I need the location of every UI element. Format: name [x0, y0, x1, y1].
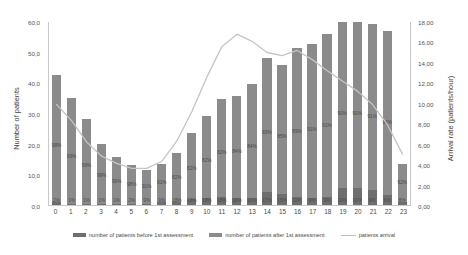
x-tick-label: 6: [139, 208, 154, 220]
legend-item-before: number of patients before 1st assessment: [73, 232, 193, 238]
y-tick-right: 12,00: [418, 80, 433, 87]
legend-label-before: number of patients before 1st assessment: [89, 232, 193, 238]
y-tick-right: 4,00: [418, 162, 430, 169]
x-tick-label: 0: [48, 208, 63, 220]
y-axis-right: 0,002,004,006,008,0010,0012,0014,0016,00…: [413, 22, 447, 206]
y-tick-left: 10,0: [28, 172, 40, 179]
y-tick-left: 0,0: [31, 203, 40, 210]
chart-legend: number of patients before 1st assessment…: [0, 232, 468, 238]
y-tick-right: 0,00: [418, 203, 430, 210]
y-tick-right: 18,00: [418, 19, 433, 26]
x-tick-label: 9: [184, 208, 199, 220]
legend-swatch-before-icon: [73, 233, 86, 237]
x-tick-label: 12: [230, 208, 245, 220]
y-tick-left: 40,0: [28, 80, 40, 87]
x-tick-label: 15: [275, 208, 290, 220]
x-tick-label: 3: [94, 208, 109, 220]
legend-item-arrival: patients arrival: [341, 232, 395, 238]
y-tick-right: 8,00: [418, 121, 430, 128]
x-tick-label: 20: [351, 208, 366, 220]
x-tick-label: 23: [396, 208, 411, 220]
y-tick-right: 6,00: [418, 141, 430, 148]
x-tick-label: 17: [305, 208, 320, 220]
y-tick-left: 50,0: [28, 49, 40, 56]
y-axis-left-title: Number of patients: [12, 59, 21, 179]
x-tick-label: 8: [169, 208, 184, 220]
x-axis-labels: 01234567891011121314151617181920212223: [48, 208, 411, 220]
y-tick-left: 60,0: [28, 19, 40, 26]
y-tick-left: 30,0: [28, 111, 40, 118]
chart-container: 0,010,020,030,040,050,060,0 Number of pa…: [0, 0, 468, 255]
line-series-patients-arrival: [49, 22, 410, 205]
x-tick-label: 19: [336, 208, 351, 220]
legend-label-after: number of patients after 1st assessment: [225, 232, 325, 238]
y-tick-left: 20,0: [28, 141, 40, 148]
x-tick-label: 13: [245, 208, 260, 220]
legend-item-after: number of patients after 1st assessment: [209, 232, 325, 238]
x-tick-label: 5: [124, 208, 139, 220]
x-tick-label: 11: [215, 208, 230, 220]
legend-swatch-after-icon: [209, 233, 222, 237]
plot-area: 98%2%99%1%99%1%99%1%99%1%98%2%91%9%91%9%…: [48, 22, 411, 206]
legend-label-arrival: patients arrival: [359, 232, 395, 238]
x-tick-label: 2: [78, 208, 93, 220]
x-tick-label: 16: [290, 208, 305, 220]
x-tick-label: 10: [199, 208, 214, 220]
y-axis-right-title: Arrival rate (patients/hour): [446, 54, 455, 184]
y-tick-right: 16,00: [418, 39, 433, 46]
y-axis-left: 0,010,020,030,040,050,060,0: [0, 22, 44, 206]
x-tick-label: 4: [109, 208, 124, 220]
legend-swatch-line-icon: [341, 235, 356, 236]
x-tick-label: 18: [320, 208, 335, 220]
x-tick-label: 1: [63, 208, 78, 220]
y-tick-right: 14,00: [418, 59, 433, 66]
x-tick-label: 22: [381, 208, 396, 220]
x-tick-label: 21: [366, 208, 381, 220]
x-tick-label: 7: [154, 208, 169, 220]
x-tick-label: 14: [260, 208, 275, 220]
y-tick-right: 2,00: [418, 182, 430, 189]
y-tick-right: 10,00: [418, 100, 433, 107]
